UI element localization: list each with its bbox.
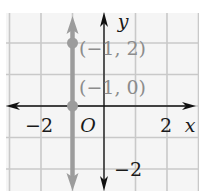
x-tick-label: 2: [160, 114, 172, 136]
y-tick-label: −2: [114, 158, 142, 180]
plotted-point: [67, 101, 78, 112]
point-label: (−1, 2): [79, 37, 146, 59]
coordinate-plane: x y O −2 2 −2 (−1, 2) (−1, 0): [0, 0, 199, 191]
x-axis-label: x: [185, 114, 196, 136]
point-label: (−1, 0): [79, 76, 146, 98]
origin-label: O: [80, 114, 96, 136]
x-tick-label: −2: [25, 114, 53, 136]
y-axis-label: y: [117, 10, 129, 32]
plotted-point: [67, 38, 78, 49]
